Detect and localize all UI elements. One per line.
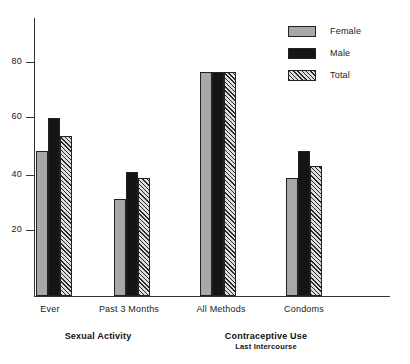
bar-past-3-months-female [114, 199, 126, 296]
bar-ever-total [60, 136, 72, 296]
panel-title-contraceptive-use: Contraceptive Use [186, 330, 346, 342]
bar-all-methods-male [212, 72, 224, 296]
category-label-past-3-months: Past 3 Months [84, 303, 174, 315]
panel-subtitle-last-intercourse: Last Intercourse [186, 342, 346, 352]
bar-condoms-male [298, 151, 310, 296]
x-axis-line [34, 296, 390, 297]
category-label-ever: Ever [20, 303, 80, 315]
legend-swatch-male-icon [288, 48, 316, 59]
category-label-all-methods: All Methods [176, 303, 266, 315]
bar-past-3-months-male [126, 172, 138, 296]
y-tick-label-60: 60 [11, 111, 22, 122]
bar-ever-male [48, 118, 60, 296]
legend-label-female: Female [330, 24, 361, 38]
category-label-condoms: Condoms [264, 303, 344, 315]
bar-past-3-months-total [138, 178, 150, 296]
legend-label-total: Total [330, 68, 350, 82]
legend-swatch-female-icon [288, 26, 316, 37]
y-tick-label-20: 20 [11, 224, 22, 235]
y-tick-label-40: 40 [11, 169, 22, 180]
panel-title-sexual-activity: Sexual Activity [28, 330, 168, 342]
bar-condoms-total [310, 166, 322, 296]
legend-label-male: Male [330, 46, 350, 60]
bar-all-methods-female [200, 72, 212, 296]
bar-all-methods-total [224, 72, 236, 296]
bar-condoms-female [286, 178, 298, 296]
legend-swatch-total-icon [288, 70, 316, 81]
y-tick-label-80: 80 [11, 56, 22, 67]
bar-chart: 80 60 40 20 Eve [0, 0, 410, 364]
bar-ever-female [36, 151, 48, 296]
